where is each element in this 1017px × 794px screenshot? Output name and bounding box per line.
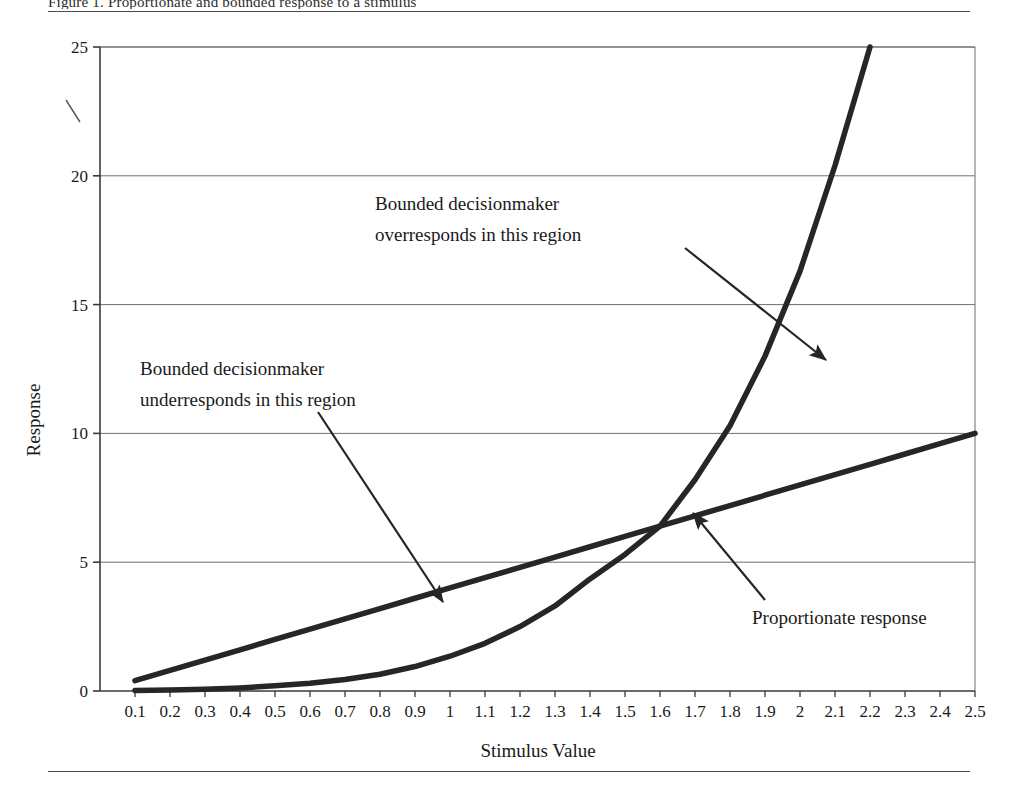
x-tick-label: 2.5 xyxy=(964,702,985,721)
annotation-line: underresponds in this region xyxy=(140,389,356,410)
x-tick-label: 0.1 xyxy=(124,702,145,721)
x-tick-label: 0.2 xyxy=(159,702,180,721)
y-tick-marks xyxy=(93,47,100,691)
series-line xyxy=(135,433,975,680)
x-tick-label: 1.3 xyxy=(544,702,565,721)
x-tick-label: 1.5 xyxy=(614,702,635,721)
x-tick-label: 1.9 xyxy=(754,702,775,721)
x-tick-marks xyxy=(135,691,975,697)
annotation-line: Bounded decisionmaker xyxy=(140,358,325,379)
y-tick-label: 10 xyxy=(71,424,88,443)
y-axis-title: Response xyxy=(23,384,44,457)
x-tick-label: 1.8 xyxy=(719,702,740,721)
x-tick-label: 1.7 xyxy=(684,702,706,721)
y-tick-label: 15 xyxy=(71,296,88,315)
x-tick-label: 2 xyxy=(796,702,805,721)
gridlines-group xyxy=(100,47,975,562)
stray-backslash-mark xyxy=(66,100,80,122)
x-tick-label: 0.8 xyxy=(369,702,390,721)
x-tick-label: 1.2 xyxy=(509,702,530,721)
x-tick-label: 0.4 xyxy=(229,702,251,721)
y-tick-label: 5 xyxy=(80,553,89,572)
x-tick-label: 2.1 xyxy=(824,702,845,721)
y-tick-labels: 0510152025 xyxy=(71,38,88,701)
x-tick-label: 0.7 xyxy=(334,702,356,721)
x-tick-label: 2.2 xyxy=(859,702,880,721)
x-tick-label: 2.4 xyxy=(929,702,951,721)
annotation-under-region: Bounded decisionmakerunderresponds in th… xyxy=(140,358,443,602)
annotation-arrow xyxy=(693,513,765,600)
x-tick-label: 1.4 xyxy=(579,702,601,721)
x-tick-label: 0.5 xyxy=(264,702,285,721)
annotation-over-region: Bounded decisionmakeroverresponds in thi… xyxy=(375,193,826,360)
x-tick-label: 0.3 xyxy=(194,702,215,721)
bottom-divider-rule xyxy=(48,771,970,772)
annotation-proportionate-label: Proportionate response xyxy=(693,513,927,628)
y-tick-label: 0 xyxy=(80,682,89,701)
annotation-arrow xyxy=(318,412,443,602)
chart-canvas: 0.10.20.30.40.50.60.70.80.911.11.21.31.4… xyxy=(0,0,1017,794)
x-axis-title: Stimulus Value xyxy=(480,740,595,761)
annotation-line: overresponds in this region xyxy=(375,224,582,245)
x-tick-label: 1 xyxy=(446,702,455,721)
annotation-line: Proportionate response xyxy=(752,607,927,628)
x-tick-label: 0.9 xyxy=(404,702,425,721)
y-tick-label: 20 xyxy=(71,167,88,186)
annotation-line: Bounded decisionmaker xyxy=(375,193,560,214)
figure-page: Figure 1. Proportionate and bounded resp… xyxy=(0,0,1017,794)
x-tick-label: 1.6 xyxy=(649,702,670,721)
x-tick-label: 1.1 xyxy=(474,702,495,721)
x-tick-label: 0.6 xyxy=(299,702,320,721)
x-tick-label: 2.3 xyxy=(894,702,915,721)
y-tick-label: 25 xyxy=(71,38,88,57)
stray-mark-artifact xyxy=(66,100,80,122)
x-tick-labels: 0.10.20.30.40.50.60.70.80.911.11.21.31.4… xyxy=(124,702,985,721)
